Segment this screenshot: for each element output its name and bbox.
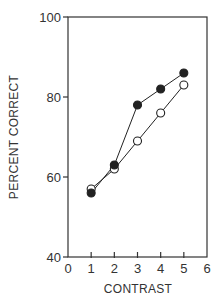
filled-data-point xyxy=(110,161,118,169)
open-data-point xyxy=(134,137,142,145)
y-tick-label: 80 xyxy=(47,90,61,105)
line-chart: 4060801000123456 CONTRAST PERCENT CORREC… xyxy=(0,0,222,305)
x-tick-label: 5 xyxy=(180,261,187,276)
filled-data-point xyxy=(157,85,165,93)
chart-axes: 4060801000123456 xyxy=(39,10,210,276)
x-tick-label: 2 xyxy=(111,261,118,276)
x-tick-label: 4 xyxy=(157,261,164,276)
filled-data-point xyxy=(134,101,142,109)
filled-data-point xyxy=(87,189,95,197)
open-data-point xyxy=(157,109,165,117)
x-tick-label: 6 xyxy=(203,261,210,276)
y-tick-label: 100 xyxy=(39,10,61,25)
x-tick-label: 0 xyxy=(64,261,71,276)
y-tick-label: 40 xyxy=(47,250,61,265)
y-tick-label: 60 xyxy=(47,170,61,185)
chart-series xyxy=(87,69,188,197)
x-tick-label: 1 xyxy=(88,261,95,276)
y-axis-label: PERCENT CORRECT xyxy=(7,74,21,199)
series-line-filled xyxy=(91,73,184,193)
open-data-point xyxy=(180,81,188,89)
filled-data-point xyxy=(180,69,188,77)
x-tick-label: 3 xyxy=(134,261,141,276)
x-axis-label: CONTRAST xyxy=(104,282,173,296)
